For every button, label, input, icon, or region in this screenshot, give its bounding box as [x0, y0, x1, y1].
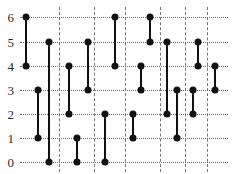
segment-1: [25, 17, 27, 66]
segment-12-endpoint-bottom: [164, 111, 171, 118]
segment-9-endpoint-bottom: [130, 135, 137, 142]
segment-12: [166, 42, 168, 114]
segment-9-endpoint-top: [130, 111, 137, 118]
segment-1-endpoint-top: [23, 14, 30, 21]
y-tick-label-1: 1: [0, 132, 14, 145]
segment-5-endpoint-top: [74, 135, 81, 142]
segment-7-endpoint-bottom: [102, 159, 109, 166]
y-tick-label-6: 6: [0, 11, 14, 24]
segment-2-endpoint-bottom: [35, 135, 42, 142]
segment-13-endpoint-top: [174, 87, 181, 94]
segment-2-endpoint-top: [35, 87, 42, 94]
v-gridline-3: [160, 7, 161, 172]
segment-12-endpoint-top: [164, 39, 171, 46]
segment-14-endpoint-top: [190, 87, 197, 94]
v-gridline-0: [59, 7, 60, 172]
segment-chart: 0123456: [0, 0, 234, 174]
segment-16-endpoint-bottom: [212, 87, 219, 94]
segment-5-endpoint-bottom: [74, 159, 81, 166]
y-tick-label-2: 2: [0, 108, 14, 121]
h-gridline-3: [20, 90, 228, 91]
segment-11-endpoint-top: [147, 14, 154, 21]
segment-8-endpoint-bottom: [112, 63, 119, 70]
segment-2: [37, 90, 39, 138]
v-gridline-2: [125, 7, 126, 172]
h-gridline-2: [20, 114, 228, 115]
segment-7-endpoint-top: [102, 111, 109, 118]
y-tick-label-5: 5: [0, 36, 14, 49]
segment-4-endpoint-top: [66, 63, 73, 70]
segment-8: [114, 17, 116, 66]
segment-3-endpoint-bottom: [46, 159, 53, 166]
h-gridline-6: [20, 17, 228, 18]
v-gridline-4: [185, 7, 186, 172]
segment-3-endpoint-top: [46, 39, 53, 46]
segment-16-endpoint-top: [212, 63, 219, 70]
segment-6: [87, 42, 89, 90]
segment-14-endpoint-bottom: [190, 111, 197, 118]
segment-13: [176, 90, 178, 138]
v-gridline-5: [207, 7, 208, 172]
segment-10-endpoint-top: [138, 63, 145, 70]
segment-8-endpoint-top: [112, 14, 119, 21]
segment-15-endpoint-top: [195, 39, 202, 46]
segment-7: [104, 114, 106, 162]
v-gridline-1: [94, 7, 95, 172]
y-tick-label-4: 4: [0, 60, 14, 73]
segment-4-endpoint-bottom: [66, 111, 73, 118]
segment-6-endpoint-bottom: [85, 87, 92, 94]
segment-13-endpoint-bottom: [174, 135, 181, 142]
segment-1-endpoint-bottom: [23, 63, 30, 70]
segment-11-endpoint-bottom: [147, 39, 154, 46]
y-tick-label-0: 0: [0, 156, 14, 169]
segment-3: [48, 42, 50, 162]
segment-4: [68, 66, 70, 114]
y-tick-label-3: 3: [0, 84, 14, 97]
segment-15-endpoint-bottom: [195, 63, 202, 70]
h-gridline-1: [20, 138, 228, 139]
segment-10-endpoint-bottom: [138, 87, 145, 94]
segment-6-endpoint-top: [85, 39, 92, 46]
